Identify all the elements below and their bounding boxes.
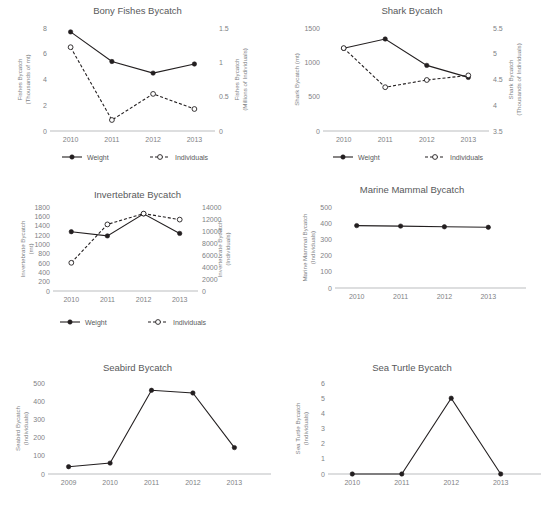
y-axis-label: (mt) (27, 244, 34, 255)
chart-title: Sea Turtle Bycatch (372, 362, 452, 373)
series-line-weight (352, 398, 500, 474)
y-axis-label: Marine Mammal Bycatch (301, 213, 308, 282)
data-point-weight (425, 63, 429, 67)
data-point-individuals (110, 118, 115, 123)
chart-1: Shark Bycatch0500100015003.544.555.52010… (275, 0, 549, 175)
x-tick-label: 2012 (443, 479, 459, 486)
legend-weight-marker (68, 320, 72, 324)
legend-individuals-marker (158, 155, 163, 160)
panel-invertebrate: Invertebrate Bycatch02004006008001000120… (0, 175, 275, 350)
data-point-individuals (151, 92, 156, 97)
y-tick-label: 300 (33, 416, 45, 423)
x-tick-label: 2013 (187, 136, 203, 143)
x-tick-label: 2010 (336, 136, 352, 143)
y-tick-label: 1800 (34, 204, 50, 211)
data-point-weight (383, 37, 387, 41)
y-axis-label: (Thousands of mt) (24, 54, 31, 104)
y2-tick-label: 3.5 (493, 128, 503, 135)
y-tick-label: 0 (43, 128, 47, 135)
data-point-weight (350, 472, 354, 476)
y2-tick-label: 4 (493, 102, 497, 109)
panel-bony-fishes: Bony Fishes Bycatch0246800.511.520102011… (0, 0, 275, 175)
data-point-weight (449, 396, 453, 400)
data-point-weight (486, 225, 490, 229)
data-point-weight (232, 445, 236, 449)
data-point-individuals (424, 78, 429, 83)
data-point-individuals (141, 211, 146, 216)
chart-2: Invertebrate Bycatch02004006008001000120… (0, 175, 275, 350)
x-tick-label: 2013 (493, 479, 509, 486)
data-point-weight (192, 62, 196, 66)
y-tick-label: 0 (316, 128, 320, 135)
y2-tick-label: 1 (219, 59, 223, 66)
y-tick-label: 500 (33, 380, 45, 387)
y-tick-label: 1400 (34, 222, 50, 229)
data-point-weight (400, 472, 404, 476)
y2-tick-label: 5 (493, 50, 497, 57)
data-point-individuals (466, 73, 471, 78)
data-point-weight (66, 465, 70, 469)
data-point-weight (499, 472, 503, 476)
y-tick-label: 2 (43, 102, 47, 109)
y2-tick-label: 0 (202, 288, 206, 295)
y-axis-label: Seabird Bycatch (14, 405, 21, 451)
legend-individuals-marker (433, 155, 438, 160)
legend-individuals-marker (156, 320, 161, 325)
data-point-individuals (68, 45, 73, 50)
x-tick-label: 2010 (102, 479, 118, 486)
data-point-weight (69, 230, 73, 234)
series-line-weight (69, 390, 235, 466)
y-tick-label: 4 (321, 410, 325, 417)
x-tick-label: 2010 (349, 293, 365, 300)
x-tick-label: 2010 (63, 136, 79, 143)
data-point-weight (398, 224, 402, 228)
chart-5: Sea Turtle Bycatch0123456201020112012201… (275, 350, 549, 512)
legend-weight-label: Weight (85, 319, 107, 327)
x-tick-label: 2013 (461, 136, 477, 143)
y-tick-label: 200 (33, 434, 45, 441)
y-axis-label: Fishes Bycatch (16, 58, 23, 101)
data-point-weight (110, 59, 114, 63)
y-tick-label: 2 (321, 440, 325, 447)
y-tick-label: 8 (43, 25, 47, 32)
y2-axis-label: (Thousands of Individuals) (515, 43, 522, 116)
y2-axis-label: Shark Bycatch (507, 59, 514, 99)
data-point-weight (442, 225, 446, 229)
series-line-weight (71, 32, 195, 73)
data-point-weight (105, 234, 109, 238)
x-tick-label: 2009 (61, 479, 77, 486)
chart-title: Bony Fishes Bycatch (93, 5, 182, 16)
series-line-weight (344, 39, 469, 77)
x-tick-label: 2012 (145, 136, 161, 143)
series-line-weight (357, 226, 489, 228)
data-point-individuals (105, 222, 110, 227)
data-point-weight (149, 388, 153, 392)
x-tick-label: 2011 (144, 479, 159, 486)
data-point-weight (355, 223, 359, 227)
y-axis-label: Sea Turtle Bycatch (294, 402, 301, 454)
x-tick-label: 2011 (378, 136, 393, 143)
legend-weight-label: Weight (87, 154, 109, 162)
legend-weight-label: Weight (358, 154, 380, 162)
y-tick-label: 1600 (34, 213, 50, 220)
x-tick-label: 2011 (104, 136, 119, 143)
data-point-weight (151, 71, 155, 75)
x-tick-label: 2011 (100, 296, 115, 303)
y2-tick-label: 14000 (202, 204, 222, 211)
data-point-individuals (383, 85, 388, 90)
x-tick-label: 2013 (480, 293, 496, 300)
y-axis-label: Shark Bycatch (mt) (293, 53, 300, 106)
data-point-weight (178, 231, 182, 235)
y-tick-label: 3 (321, 425, 325, 432)
panel-sea-turtle: Sea Turtle Bycatch0123456201020112012201… (275, 350, 549, 512)
y2-axis-label: Fishes Bycatch (233, 58, 240, 101)
y-tick-label: 0 (328, 285, 332, 292)
series-line-individuals (344, 48, 469, 87)
y-tick-label: 1000 (34, 241, 50, 248)
data-point-individuals (341, 46, 346, 51)
y-tick-label: 4 (43, 76, 47, 83)
y-tick-label: 1500 (304, 25, 320, 32)
y-tick-label: 400 (320, 220, 332, 227)
legend-individuals-label: Individuals (173, 319, 207, 326)
y-tick-label: 600 (38, 260, 50, 267)
